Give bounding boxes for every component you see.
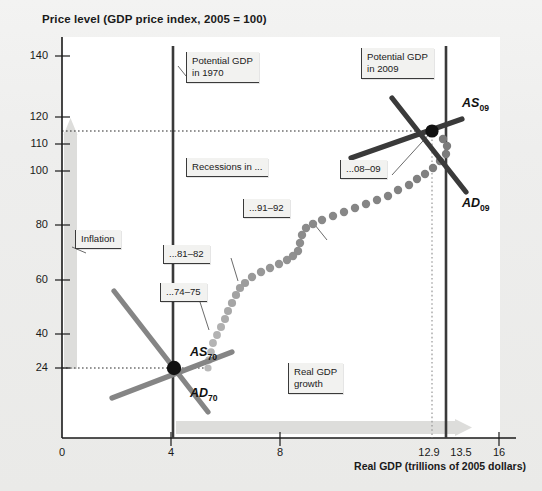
- equilibrium-point-2009: [425, 124, 438, 137]
- callout-recession-08-09: ...08–09: [340, 160, 387, 179]
- callout-potential-gdp-2009-line1: Potential GDP: [367, 51, 428, 63]
- callout-recession-81-82: ...81–82: [163, 245, 210, 264]
- y-tick-label-24: 24: [22, 361, 48, 373]
- y-tick-label-110: 110: [22, 137, 48, 149]
- y-tick-label-140: 140: [22, 49, 48, 61]
- callout-recession-91-92-text: ...91–92: [249, 202, 284, 214]
- x-tick-label-12-9: 12.9: [412, 446, 446, 458]
- label-ad09-base: AD: [462, 196, 480, 210]
- callout-real-gdp-growth-line2: growth: [294, 378, 337, 390]
- callout-potential-gdp-1970-line2: in 1970: [192, 67, 253, 79]
- figure-page: Price level (GDP price index, 2005 = 100…: [0, 0, 542, 491]
- label-as09: AS09: [462, 96, 489, 113]
- callout-recession-81-82-text: ...81–82: [169, 248, 204, 260]
- callout-potential-gdp-1970-line1: Potential GDP: [192, 55, 253, 67]
- x-tick-label-16: 16: [485, 446, 513, 458]
- x-tick-label-4: 4: [157, 446, 185, 458]
- y-tick-label-120: 120: [22, 110, 48, 122]
- x-tick-label-13-5: 13.5: [444, 446, 478, 458]
- x-tick-marks: [171, 432, 499, 446]
- label-as09-sub: 09: [479, 103, 489, 113]
- label-ad09: AD09: [462, 196, 490, 213]
- real-gdp-growth-arrow: [176, 419, 472, 436]
- label-as70-sub: 70: [207, 352, 217, 362]
- label-as70: AS70: [190, 345, 217, 362]
- y-tick-label-80: 80: [22, 218, 48, 230]
- y-tick-label-60: 60: [22, 273, 48, 285]
- callout-leaders: [72, 62, 432, 393]
- label-as70-base: AS: [190, 345, 207, 359]
- ad09-curve: [392, 98, 466, 192]
- callout-inflation: Inflation: [75, 230, 121, 249]
- callout-recession-91-92: ...91–92: [243, 199, 290, 218]
- callout-potential-gdp-1970: Potential GDP in 1970: [186, 52, 259, 83]
- callout-potential-gdp-2009-line2: in 2009: [367, 63, 428, 75]
- callout-real-gdp-growth: Real GDP growth: [288, 363, 343, 394]
- label-ad09-sub: 09: [480, 203, 490, 213]
- callout-inflation-text: Inflation: [81, 233, 115, 245]
- x-tick-label-8: 8: [266, 446, 294, 458]
- label-as09-base: AS: [462, 96, 479, 110]
- callout-recession-74-75-text: ...74–75: [166, 286, 201, 298]
- callout-recessions-text: Recessions in ...: [192, 161, 262, 173]
- callout-potential-gdp-2009: Potential GDP in 2009: [361, 48, 434, 79]
- x-tick-label-0: 0: [48, 446, 76, 458]
- callout-recessions: Recessions in ...: [186, 158, 268, 177]
- label-ad70-base: AD: [190, 386, 208, 400]
- label-ad70-sub: 70: [208, 393, 218, 403]
- label-ad70: AD70: [190, 386, 218, 403]
- callout-recession-74-75: ...74–75: [160, 283, 207, 302]
- equilibrium-point-1970: [167, 361, 181, 375]
- callout-real-gdp-growth-line1: Real GDP: [294, 366, 337, 378]
- y-tick-label-40: 40: [22, 327, 48, 339]
- callout-recession-08-09-text: ...08–09: [346, 163, 381, 175]
- y-tick-label-100: 100: [22, 164, 48, 176]
